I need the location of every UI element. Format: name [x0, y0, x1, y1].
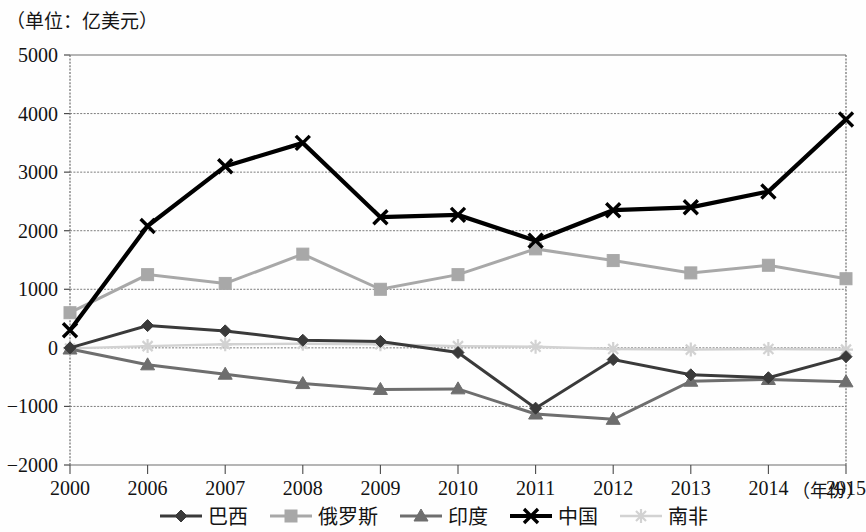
chart-container: （单位：亿美元） 500040003000200010000−1000−2000…	[0, 0, 866, 532]
legend-marker-asterisk-icon	[618, 506, 664, 526]
marker-square	[762, 259, 774, 271]
series-中国	[63, 112, 853, 337]
marker-square	[285, 510, 297, 522]
legend-label: 俄罗斯	[318, 501, 378, 530]
chart-legend: 巴西俄罗斯印度中国南非	[0, 501, 866, 530]
marker-cross	[141, 219, 155, 233]
marker-asterisk	[684, 343, 698, 357]
marker-diamond	[685, 369, 697, 381]
marker-diamond	[142, 320, 154, 332]
legend-label: 印度	[448, 501, 488, 530]
legend-marker-diamond-icon	[158, 506, 204, 526]
marker-square	[452, 269, 464, 281]
marker-square	[685, 267, 697, 279]
marker-square	[64, 307, 76, 319]
legend-item-俄罗斯[interactable]: 俄罗斯	[268, 501, 378, 530]
legend-item-南非[interactable]: 南非	[618, 501, 708, 530]
marker-asterisk	[218, 337, 232, 351]
legend-label: 中国	[558, 501, 598, 530]
series-巴西	[64, 320, 852, 415]
legend-label: 南非	[668, 501, 708, 530]
series-line	[70, 326, 846, 409]
marker-diamond	[219, 325, 231, 337]
marker-square	[219, 277, 231, 289]
marker-asterisk	[634, 509, 648, 523]
marker-asterisk	[761, 342, 775, 356]
marker-diamond	[175, 510, 187, 522]
marker-square	[607, 255, 619, 267]
legend-item-巴西[interactable]: 巴西	[158, 501, 248, 530]
marker-square	[374, 283, 386, 295]
legend-item-印度[interactable]: 印度	[398, 501, 488, 530]
legend-item-中国[interactable]: 中国	[508, 501, 598, 530]
legend-marker-square-icon	[268, 506, 314, 526]
plot-area	[0, 0, 866, 532]
marker-square	[297, 248, 309, 260]
marker-square	[840, 273, 852, 285]
marker-square	[142, 269, 154, 281]
marker-diamond	[374, 335, 386, 347]
legend-marker-triangle-icon	[398, 506, 444, 526]
marker-asterisk	[529, 340, 543, 354]
series-line	[70, 119, 846, 330]
legend-label: 巴西	[208, 501, 248, 530]
legend-marker-cross-icon	[508, 506, 554, 526]
marker-asterisk	[141, 339, 155, 353]
series-俄罗斯	[64, 243, 852, 319]
